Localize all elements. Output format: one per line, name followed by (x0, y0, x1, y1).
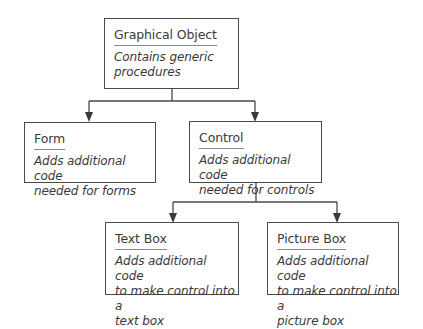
node-description: Adds additional code needed for controls (199, 153, 321, 198)
node-picture-box: Picture Box Adds additional code to make… (267, 222, 399, 295)
node-title: Picture Box (277, 231, 346, 250)
node-title: Form (34, 131, 65, 150)
node-text-box: Text Box Adds additional code to make co… (105, 222, 239, 295)
node-graphical-object: Graphical Object Contains generic proced… (104, 18, 239, 89)
node-description: Adds additional code to make control int… (115, 254, 238, 329)
node-description: Adds additional code needed for forms (34, 154, 155, 199)
arrowhead-form-icon (85, 112, 93, 122)
node-description: Adds additional code to make control int… (277, 254, 398, 329)
node-title: Text Box (115, 231, 167, 250)
node-title: Control (199, 130, 244, 149)
node-title: Graphical Object (114, 27, 217, 46)
node-description: Contains generic procedures (114, 50, 238, 80)
node-form: Form Adds additional code needed for for… (24, 122, 156, 183)
node-control: Control Adds additional code needed for … (189, 121, 322, 183)
